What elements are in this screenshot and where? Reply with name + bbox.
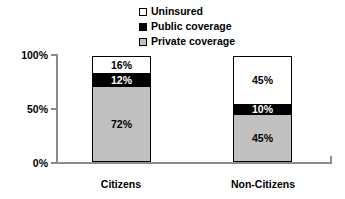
bar-non-citizens[interactable]: 45% 10% 45% xyxy=(233,56,292,162)
legend-item-public-coverage: Public coverage xyxy=(139,20,235,33)
stacked-bar-chart: Uninsured Public coverage Private covera… xyxy=(0,0,345,199)
y-tick-50 xyxy=(51,108,57,110)
y-axis-label-100: 100% xyxy=(21,50,48,60)
segment-citizens-public[interactable]: 12% xyxy=(92,73,151,86)
x-axis-line xyxy=(56,162,332,164)
segment-citizens-uninsured[interactable]: 16% xyxy=(92,56,151,73)
bar-citizens[interactable]: 16% 12% 72% xyxy=(92,56,151,162)
legend-item-uninsured: Uninsured xyxy=(139,5,235,18)
y-tick-100 xyxy=(51,54,57,56)
gray-swatch-icon xyxy=(139,38,147,46)
white-swatch-icon xyxy=(139,8,147,16)
legend-item-private-coverage: Private coverage xyxy=(139,35,235,48)
chart-legend: Uninsured Public coverage Private covera… xyxy=(139,5,235,48)
segment-non-citizens-public[interactable]: 10% xyxy=(233,104,292,115)
plot-area: 100% 50% 0% 16% 12% 72% 45% 10% 45% Citi… xyxy=(56,56,332,162)
x-axis-end-tick xyxy=(330,156,332,164)
x-axis-label-non-citizens: Non-Citizens xyxy=(203,178,323,190)
x-axis-label-citizens: Citizens xyxy=(61,178,181,190)
black-swatch-icon xyxy=(139,23,147,31)
y-axis-label-50: 50% xyxy=(27,104,48,114)
y-axis-label-0: 0% xyxy=(33,158,48,168)
legend-label-private-coverage: Private coverage xyxy=(151,36,235,47)
legend-label-uninsured: Uninsured xyxy=(151,6,203,17)
legend-label-public-coverage: Public coverage xyxy=(151,21,232,32)
segment-non-citizens-private[interactable]: 45% xyxy=(233,114,292,162)
segment-citizens-private[interactable]: 72% xyxy=(92,86,151,162)
segment-non-citizens-uninsured[interactable]: 45% xyxy=(233,56,292,104)
y-tick-0 xyxy=(51,162,57,164)
